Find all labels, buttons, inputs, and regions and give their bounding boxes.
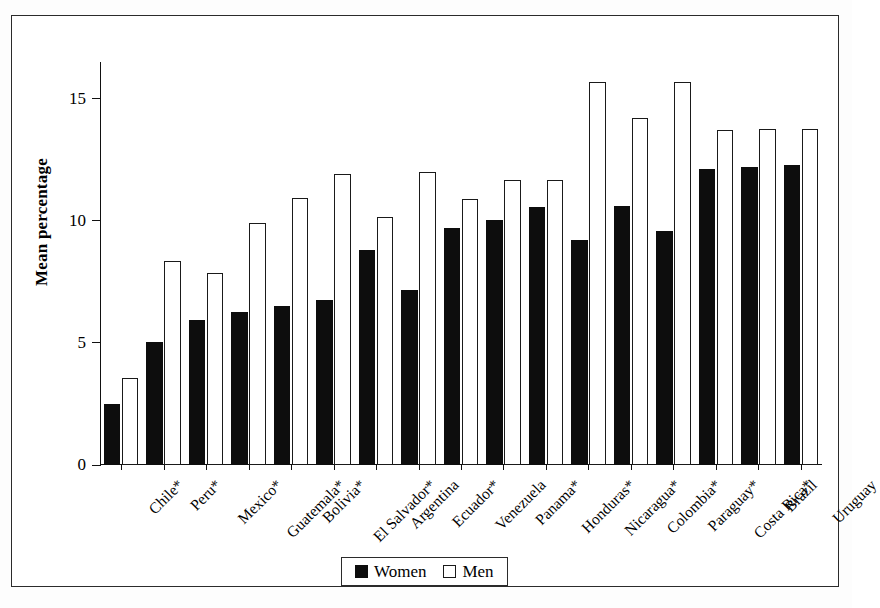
bar-group [571, 62, 606, 465]
bar-group [784, 62, 819, 465]
legend-item: Women [355, 563, 426, 580]
bar-men [759, 129, 776, 465]
bar-group [529, 62, 564, 465]
bar-women [146, 342, 163, 465]
bar-women [656, 231, 673, 465]
bar-men [334, 174, 351, 465]
legend-item: Men [443, 563, 493, 580]
x-axis-label: Chile* [145, 476, 187, 518]
bar-women [316, 300, 333, 465]
bar-men [504, 180, 521, 465]
bar-men [462, 199, 479, 465]
x-axis-label: Peru* [186, 476, 224, 514]
bar-group [741, 62, 776, 465]
x-tick [121, 465, 122, 470]
x-tick [631, 465, 632, 470]
bar-men [164, 261, 181, 465]
legend-label: Women [374, 563, 426, 580]
bar-women [444, 228, 461, 465]
bar-men [802, 129, 819, 465]
bar-group [231, 62, 266, 465]
x-tick [673, 465, 674, 470]
legend-swatch-women [355, 565, 368, 578]
bar-men [717, 130, 734, 465]
x-tick [588, 465, 589, 470]
y-tick-label-wrap: 10 [54, 212, 86, 230]
x-tick [249, 465, 250, 470]
x-tick [291, 465, 292, 470]
bar-women [231, 312, 248, 465]
bar-group [614, 62, 649, 465]
y-tick-label: 15 [56, 90, 86, 107]
x-axis-label: Brazil [781, 476, 821, 516]
bar-men [632, 118, 649, 465]
bar-women [274, 306, 291, 465]
bar-group [316, 62, 351, 465]
y-tick-label: 5 [56, 334, 86, 351]
bar-group [656, 62, 691, 465]
bar-women [571, 240, 588, 465]
y-tick-label-wrap: 15 [54, 90, 86, 108]
bar-women [741, 167, 758, 465]
bar-group [444, 62, 479, 465]
x-tick [376, 465, 377, 470]
bar-group [486, 62, 521, 465]
x-tick [334, 465, 335, 470]
bar-men [249, 223, 266, 465]
chart-legend: WomenMen [341, 557, 508, 586]
y-tick-label: 10 [56, 212, 86, 229]
x-tick [164, 465, 165, 470]
bar-women [189, 320, 206, 465]
x-tick [758, 465, 759, 470]
x-tick [801, 465, 802, 470]
x-axis-label: Mexico* [234, 476, 286, 528]
bar-women [699, 169, 716, 465]
x-tick [419, 465, 420, 470]
bar-men [419, 172, 436, 465]
bar-group [359, 62, 394, 465]
bar-men [547, 180, 564, 465]
bar-group [274, 62, 309, 465]
legend-label: Men [462, 563, 493, 580]
legend-swatch-men [443, 565, 456, 578]
bar-women [614, 206, 631, 465]
bar-men [377, 217, 394, 465]
bar-group [104, 62, 139, 465]
bar-group [189, 62, 224, 465]
x-tick [546, 465, 547, 470]
bar-group [401, 62, 436, 465]
bar-women [529, 207, 546, 465]
bar-group [699, 62, 734, 465]
x-tick [716, 465, 717, 470]
bar-men [122, 378, 139, 465]
bar-women [784, 165, 801, 465]
bar-men [292, 198, 309, 465]
y-axis-title: Mean percentage [32, 132, 52, 312]
figure-frame: Mean percentage 051015 Chile*Peru*Mexico… [11, 15, 839, 587]
bar-women [401, 290, 418, 465]
bar-men [674, 82, 691, 465]
bar-men [207, 273, 224, 465]
bar-men [589, 82, 606, 465]
y-tick-label: 0 [56, 456, 86, 473]
y-tick-label-wrap: 5 [54, 334, 86, 352]
plot-area [100, 62, 822, 465]
bar-group [146, 62, 181, 465]
x-tick [206, 465, 207, 470]
bar-women [359, 250, 376, 465]
bar-women [486, 220, 503, 465]
x-tick [503, 465, 504, 470]
x-tick [461, 465, 462, 470]
y-tick-label-wrap: 0 [54, 456, 86, 474]
x-axis-label: Uruguay [829, 476, 880, 527]
bar-women [104, 404, 121, 465]
